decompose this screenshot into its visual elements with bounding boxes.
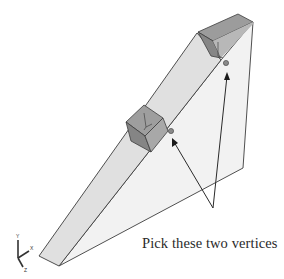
lower-vertex-dot[interactable]	[168, 128, 173, 133]
svg-text:X: X	[30, 245, 34, 251]
svg-text:Z: Z	[24, 267, 27, 273]
axis-triad-icon: Y X Z	[16, 233, 34, 273]
upper-vertex-dot[interactable]	[223, 60, 228, 65]
annotation-label: Pick these two vertices	[142, 235, 278, 252]
svg-text:Y: Y	[16, 233, 20, 239]
cad-viewport: Y X Z Pick these two vertices	[0, 0, 284, 279]
